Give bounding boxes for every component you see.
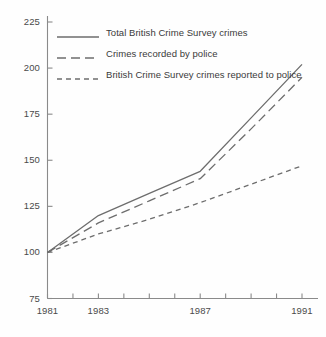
series-line [48, 64, 303, 252]
legend-label: Total British Crime Survey crimes [106, 27, 248, 38]
x-axis-ticks [48, 294, 303, 299]
x-tick-label: 1991 [282, 305, 322, 316]
y-tick-label: 175 [12, 108, 40, 119]
y-tick-label: 225 [12, 16, 40, 27]
data-series-group [48, 64, 303, 252]
legend-item: Total British Crime Survey crimes [57, 22, 319, 43]
y-tick-label: 200 [12, 62, 40, 73]
crime-index-line-chart: 75100125150175200225 1981198319871991 To… [0, 0, 326, 337]
legend-item: British Crime Survey crimes reported to … [57, 64, 319, 85]
x-tick-label: 1983 [78, 305, 118, 316]
chart-legend: Total British Crime Survey crimesCrimes … [57, 22, 319, 85]
y-tick-label: 75 [12, 293, 40, 304]
legend-line-swatch [57, 49, 99, 59]
legend-line-swatch [57, 28, 99, 38]
x-tick-label: 1987 [180, 305, 220, 316]
y-axis-ticks [48, 22, 53, 299]
y-tick-label: 125 [12, 200, 40, 211]
legend-item: Crimes recorded by police [57, 43, 319, 64]
series-line [48, 166, 303, 253]
legend-line-swatch [57, 70, 99, 80]
y-tick-label: 100 [12, 246, 40, 257]
legend-label: British Crime Survey crimes reported to … [106, 69, 302, 80]
legend-label: Crimes recorded by police [106, 48, 218, 59]
x-tick-label: 1981 [28, 305, 68, 316]
y-tick-label: 150 [12, 154, 40, 165]
